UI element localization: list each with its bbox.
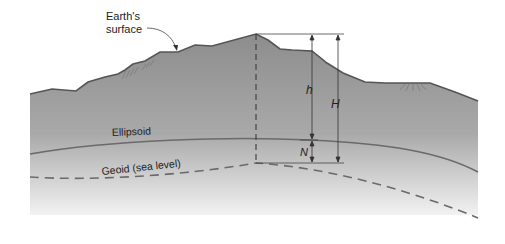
terrain-body [30,34,478,215]
earth-surface-label-line2: surface [106,23,142,35]
N-label: N [300,146,308,158]
H-label: H [331,97,340,111]
h-label: h [306,83,313,97]
geodesy-diagram: Earth's surface Ellipsoid Geoid (sea lev… [0,0,505,244]
surface-leader-arrow [147,28,176,48]
earth-surface-label-line1: Earth's [106,10,140,22]
ellipsoid-label: Ellipsoid [112,125,152,138]
leader-arrowhead-icon [173,45,178,51]
